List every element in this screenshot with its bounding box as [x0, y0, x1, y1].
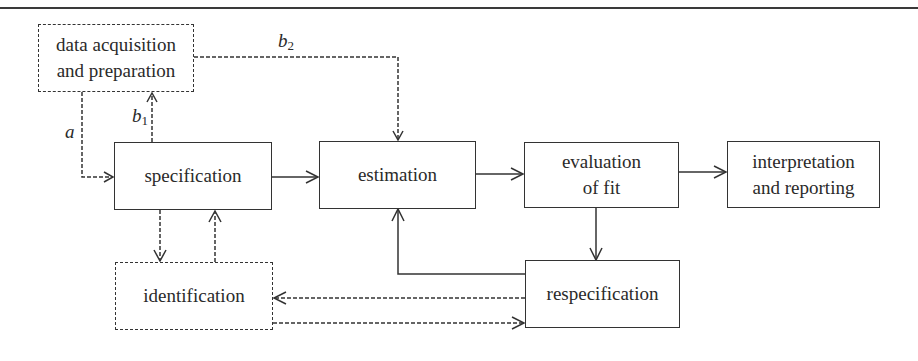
- box-estimation: estimation: [319, 141, 476, 209]
- box-respecification: respecification: [525, 260, 680, 328]
- box-data-line2: and preparation: [57, 58, 176, 84]
- box-specification: specification: [114, 142, 272, 210]
- edge-label-b2-sub: 2: [288, 38, 295, 53]
- edge-a: [82, 92, 112, 177]
- edge-b2: [194, 57, 398, 139]
- box-interpretation: interpretation and reporting: [727, 141, 880, 208]
- edge-label-b1-base: b: [132, 105, 142, 126]
- box-specification-label: specification: [144, 163, 241, 189]
- edge-label-b2-base: b: [278, 30, 288, 51]
- box-evaluation-line1: evaluation: [562, 149, 641, 175]
- box-data-line1: data acquisition: [56, 32, 176, 58]
- box-evaluation-of-fit: evaluation of fit: [524, 142, 679, 208]
- box-identification-label: identification: [143, 283, 244, 309]
- box-identification: identification: [115, 262, 273, 330]
- edge-label-a: a: [65, 121, 75, 143]
- box-respecification-label: respecification: [547, 281, 659, 307]
- edge-label-b2: b2: [278, 30, 294, 54]
- edge-label-b1: b1: [132, 105, 148, 129]
- edge-label-a-text: a: [65, 121, 75, 142]
- box-interpretation-line1: interpretation: [752, 149, 854, 175]
- edge-label-b1-sub: 1: [142, 113, 149, 128]
- box-estimation-label: estimation: [358, 162, 437, 188]
- box-evaluation-line2: of fit: [583, 175, 620, 201]
- box-interpretation-line2: and reporting: [753, 175, 855, 201]
- edge-respec-est: [398, 210, 525, 274]
- diagram-canvas: data acquisition and preparation specifi…: [0, 0, 918, 361]
- box-data-acquisition: data acquisition and preparation: [38, 24, 194, 92]
